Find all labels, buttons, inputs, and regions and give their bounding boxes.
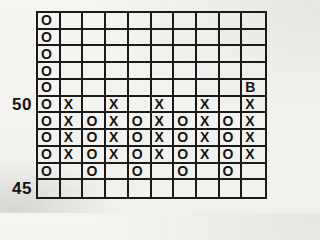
pnf-cell-empty [83, 63, 106, 80]
pnf-cell-empty [242, 164, 265, 181]
pnf-cell-empty [197, 46, 220, 63]
pnf-cell-empty [83, 30, 106, 47]
pnf-mark-x: X [197, 147, 220, 164]
pnf-cell-empty [242, 13, 265, 30]
pnf-mark-o: O [83, 147, 106, 164]
pnf-mark-o: O [38, 63, 61, 80]
pnf-mark-o: O [220, 164, 243, 181]
pnf-mark-x: X [152, 97, 175, 114]
y-axis-tick-upper: 50 [0, 96, 32, 113]
pnf-cell-empty [83, 13, 106, 30]
pnf-cell-empty [174, 97, 197, 114]
pnf-cell-empty [174, 13, 197, 30]
pnf-cell-empty [242, 46, 265, 63]
pnf-cell-empty [106, 13, 129, 30]
pnf-mark-x: X [152, 113, 175, 130]
pnf-mark-x: X [242, 113, 265, 130]
pnf-cell-empty [129, 180, 152, 197]
pnf-mark-x: X [106, 113, 129, 130]
pnf-mark-o: O [129, 130, 152, 147]
pnf-mark-o: O [38, 80, 61, 97]
pnf-cell-empty [106, 63, 129, 80]
pnf-grid: OOOOOBOXXXXXOXOXOXOXOXOXOXOXOXOXOXOXOXOX… [36, 11, 267, 199]
pnf-cell-empty [174, 180, 197, 197]
pnf-cell-empty [220, 30, 243, 47]
pnf-mark-x: X [197, 97, 220, 114]
pnf-mark-x: X [106, 147, 129, 164]
pnf-mark-x: X [61, 97, 84, 114]
pnf-cell-empty [174, 80, 197, 97]
pnf-cell-empty [61, 164, 84, 181]
pnf-mark-o: O [38, 164, 61, 181]
pnf-mark-o: O [129, 113, 152, 130]
pnf-cell-empty [220, 80, 243, 97]
pnf-cell-empty [129, 63, 152, 80]
pnf-cell-empty [152, 180, 175, 197]
pnf-mark-o: O [38, 113, 61, 130]
pnf-mark-x: X [242, 130, 265, 147]
pnf-cell-empty [106, 46, 129, 63]
pnf-mark-o: O [38, 46, 61, 63]
pnf-cell-empty [152, 80, 175, 97]
pnf-mark-o: O [83, 113, 106, 130]
pnf-cell-empty [220, 13, 243, 30]
pnf-cell-empty [220, 46, 243, 63]
pnf-mark-o: O [174, 147, 197, 164]
pnf-mark-o: O [220, 130, 243, 147]
pnf-cell-empty [129, 30, 152, 47]
pnf-mark-x: X [61, 147, 84, 164]
pnf-cell-empty [197, 30, 220, 47]
pnf-mark-o: O [129, 147, 152, 164]
pnf-cell-empty [129, 97, 152, 114]
pnf-mark-o: O [220, 113, 243, 130]
pnf-cell-empty [174, 46, 197, 63]
pnf-mark-x: X [106, 97, 129, 114]
pnf-mark-o: O [38, 30, 61, 47]
pnf-cell-empty [152, 30, 175, 47]
pnf-mark-x: X [61, 113, 84, 130]
pnf-mark-o: O [38, 147, 61, 164]
pnf-mark-x: X [152, 130, 175, 147]
pnf-cell-empty [106, 180, 129, 197]
pnf-cell-empty [129, 13, 152, 30]
pnf-mark-o: O [83, 164, 106, 181]
pnf-mark-o: O [38, 97, 61, 114]
pnf-cell-empty [83, 180, 106, 197]
pnf-cell-empty [242, 63, 265, 80]
y-axis-tick-lower: 45 [0, 180, 32, 197]
pnf-mark-b: B [242, 80, 265, 97]
pnf-mark-o: O [174, 164, 197, 181]
pnf-cell-empty [197, 80, 220, 97]
pnf-cell-empty [61, 180, 84, 197]
pnf-mark-o: O [38, 130, 61, 147]
pnf-cell-empty [242, 180, 265, 197]
pnf-cell-empty [242, 30, 265, 47]
pnf-mark-x: X [197, 130, 220, 147]
pnf-cell-empty [152, 164, 175, 181]
pnf-cell-empty [61, 80, 84, 97]
pnf-cell-empty [61, 13, 84, 30]
pnf-cell-empty [106, 30, 129, 47]
pnf-mark-o: O [174, 130, 197, 147]
pnf-cell-empty [83, 46, 106, 63]
pnf-mark-o: O [220, 147, 243, 164]
pnf-cell-empty [38, 180, 61, 197]
pnf-cell-empty [83, 97, 106, 114]
pnf-cell-empty [129, 80, 152, 97]
pnf-cell-empty [152, 46, 175, 63]
pnf-mark-x: X [242, 147, 265, 164]
pnf-cell-empty [152, 63, 175, 80]
pnf-cell-empty [152, 13, 175, 30]
pnf-mark-x: X [61, 130, 84, 147]
pnf-cell-empty [197, 180, 220, 197]
pnf-cell-empty [106, 80, 129, 97]
pnf-cell-empty [106, 164, 129, 181]
point-and-figure-chart: 50 45 OOOOOBOXXXXXOXOXOXOXOXOXOXOXOXOXOX… [0, 0, 270, 213]
pnf-cell-empty [61, 46, 84, 63]
pnf-cell-empty [220, 180, 243, 197]
pnf-mark-x: X [242, 97, 265, 114]
pnf-mark-x: X [197, 113, 220, 130]
pnf-cell-empty [197, 13, 220, 30]
pnf-mark-x: X [152, 147, 175, 164]
pnf-cell-empty [197, 164, 220, 181]
